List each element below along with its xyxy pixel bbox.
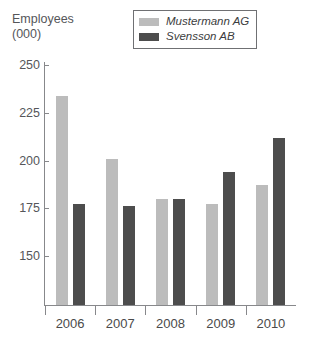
bar-2007-mustermann-ag: [106, 159, 118, 305]
x-axis-label-2010: 2010: [256, 316, 285, 331]
y-tick-mark: [44, 161, 49, 162]
bar-2009-mustermann-ag: [206, 204, 218, 305]
x-axis-separator-tick: [95, 306, 96, 315]
bar-2008-mustermann-ag: [156, 199, 168, 305]
employees-bar-chart: Employees (000) Mustermann AG Svensson A…: [0, 0, 316, 345]
x-axis-separator-tick: [45, 306, 46, 315]
bar-2009-svensson-ab: [223, 172, 235, 305]
y-tick-label: 225: [0, 106, 40, 120]
y-tick-label: 250: [0, 58, 40, 72]
x-axis-label-2008: 2008: [156, 316, 185, 331]
bar-2010-mustermann-ag: [256, 185, 268, 305]
bar-2007-svensson-ab: [123, 206, 135, 305]
y-axis-line: [44, 62, 45, 306]
plot-area: 150175200225250 20062007200820092010: [0, 0, 316, 345]
x-axis-separator-tick: [145, 306, 146, 315]
x-axis-separator-tick: [246, 306, 247, 315]
y-tick-label: 200: [0, 154, 40, 168]
y-tick-mark: [44, 65, 49, 66]
y-tick-label: 175: [0, 201, 40, 215]
bar-2010-svensson-ab: [273, 138, 285, 305]
x-axis-label-2007: 2007: [106, 316, 135, 331]
bar-2006-mustermann-ag: [56, 96, 68, 305]
x-axis-separator-tick: [196, 306, 197, 315]
x-axis-label-2009: 2009: [206, 316, 235, 331]
x-axis-label-2006: 2006: [56, 316, 85, 331]
y-tick-mark: [44, 256, 49, 257]
x-axis-line: [44, 305, 296, 306]
bar-2006-svensson-ab: [73, 204, 85, 305]
y-tick-label: 150: [0, 249, 40, 263]
bar-2008-svensson-ab: [173, 199, 185, 305]
y-tick-mark: [44, 208, 49, 209]
y-tick-mark: [44, 113, 49, 114]
